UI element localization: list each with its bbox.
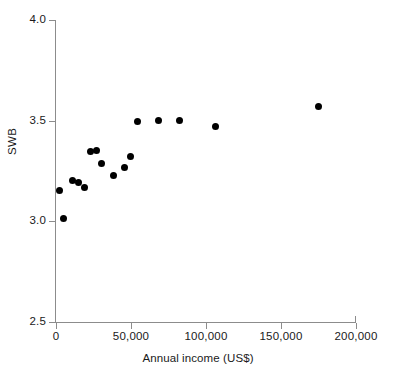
scatter-plot-figure: 2.53.03.54.0050,000100,000150,000200,000… xyxy=(0,0,396,379)
data-point xyxy=(127,153,134,160)
data-point xyxy=(98,160,105,167)
data-point xyxy=(315,103,322,110)
y-axis-tick-label: 2.5 xyxy=(2,315,46,327)
x-axis-tick-label: 50,000 xyxy=(113,330,149,342)
data-point xyxy=(121,164,128,171)
x-axis-tick xyxy=(356,323,357,329)
x-axis-tick xyxy=(206,323,207,329)
data-point xyxy=(56,187,63,194)
x-axis-tick-label: 200,000 xyxy=(335,330,378,342)
data-markers-layer xyxy=(56,20,356,322)
y-axis-tick xyxy=(49,121,55,122)
x-axis-tick xyxy=(56,323,57,329)
x-axis-tick xyxy=(281,323,282,329)
x-axis-tick-label: 0 xyxy=(53,330,60,342)
x-axis-tick xyxy=(131,323,132,329)
data-point xyxy=(212,123,219,130)
y-axis-tick-label: 4.0 xyxy=(2,13,46,25)
y-axis-tick xyxy=(49,322,55,323)
y-axis-tick-label: 3.0 xyxy=(2,214,46,226)
y-axis-tick-label: 3.5 xyxy=(2,114,46,126)
data-point xyxy=(81,184,88,191)
x-axis-tick-label: 100,000 xyxy=(185,330,228,342)
x-axis-tick-label: 150,000 xyxy=(260,330,303,342)
data-point xyxy=(155,117,162,124)
y-axis-title: SWB xyxy=(6,128,18,155)
data-point xyxy=(176,117,183,124)
y-axis-tick xyxy=(49,20,55,21)
data-point xyxy=(110,172,117,179)
data-point xyxy=(60,215,67,222)
data-point xyxy=(93,147,100,154)
y-axis-tick xyxy=(49,221,55,222)
x-axis-title: Annual income (US$) xyxy=(0,352,396,364)
data-point xyxy=(134,118,141,125)
